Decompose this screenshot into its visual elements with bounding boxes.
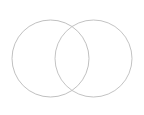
diagram-background [0,0,144,115]
venn-diagram [0,0,144,115]
diagram-root [0,0,144,115]
